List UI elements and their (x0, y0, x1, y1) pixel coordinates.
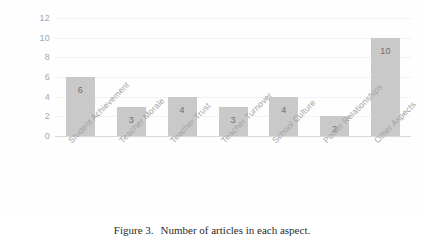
y-axis-tick-label: 4 (45, 92, 50, 102)
y-axis-tick-label: 10 (40, 33, 50, 43)
x-axis-category-label: Power Relationships (321, 138, 328, 145)
x-axis-category-label: Student Achievement (66, 138, 73, 145)
x-axis-category-label: Teacher Trust (168, 138, 175, 145)
y-axis-tick-label: 6 (45, 72, 50, 82)
x-axis-category-labels: Student AchievementTeacher MoraleTeacher… (0, 138, 424, 218)
x-axis-category-label: Other Aspects (372, 138, 379, 145)
figure: 63434210 024681012 Student AchievementTe… (0, 0, 424, 240)
plot-area: 63434210 (55, 18, 411, 136)
caption-number: Figure 3. (114, 224, 154, 236)
caption-text: Number of articles in each aspect. (161, 224, 311, 236)
figure-caption: Figure 3.Number of articles in each aspe… (0, 224, 424, 236)
x-axis-category-label: School Culture (270, 138, 277, 145)
y-axis-tick-label: 8 (45, 52, 50, 62)
bar-chart: 63434210 024681012 Student AchievementTe… (0, 0, 424, 218)
y-axis-tick-label: 12 (40, 13, 50, 23)
bar-value-label: 6 (66, 85, 95, 95)
x-axis-category-label: Teacher Morale (117, 138, 124, 145)
y-axis-tick-labels: 024681012 (26, 18, 50, 136)
x-axis-category-label: Teacher Turnover (219, 138, 226, 145)
bar-value-label: 10 (371, 46, 400, 56)
y-axis-tick-label: 2 (45, 111, 50, 121)
